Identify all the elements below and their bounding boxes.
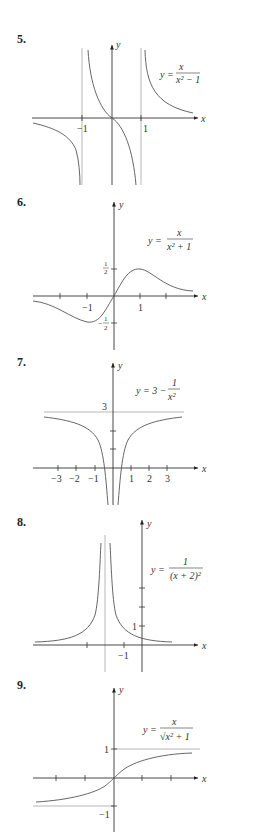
svg-text:3: 3 (165, 473, 170, 484)
svg-text:y: y (118, 684, 124, 695)
svg-text:1: 1 (104, 744, 109, 755)
svg-text:x² − 1: x² − 1 (175, 74, 200, 85)
svg-text:1: 1 (138, 302, 143, 313)
svg-text:√x² + 1: √x² + 1 (160, 731, 190, 742)
svg-text:y: y (146, 518, 152, 529)
graph-6: 6. x y −1 1 1 2 − 1 2 y = x x² + 1 (17, 195, 207, 350)
tick-label: −1 (77, 123, 88, 134)
svg-text:y: y (117, 360, 123, 371)
svg-text:x²: x² (167, 391, 176, 402)
svg-text:1: 1 (104, 260, 108, 268)
graph-7: 7. x y 3 −3 −2 −1 1 2 3 y = 3 − 1 x² (17, 355, 207, 505)
exercise-number-9: 9. (17, 678, 26, 692)
equation-6: y = x x² + 1 (147, 227, 193, 252)
svg-text:y =: y = (147, 235, 162, 246)
svg-text:2: 2 (147, 473, 152, 484)
tick-label: 1 (143, 123, 148, 134)
svg-text:−1: −1 (99, 809, 110, 820)
svg-text:y =: y = (150, 564, 165, 575)
exercise-graphs: 5. x y −1 1 y = x x² − 1 6. x y −1 (0, 0, 253, 836)
svg-text:1: 1 (183, 556, 188, 567)
curve (44, 417, 108, 505)
svg-text:x: x (201, 773, 207, 784)
svg-text:y =: y = (142, 724, 157, 735)
svg-text:−2: −2 (69, 473, 80, 484)
graph-5: 5. x y −1 1 y = x x² − 1 (17, 32, 206, 185)
exercise-number-8: 8. (17, 515, 26, 529)
svg-text:x² + 1: x² + 1 (166, 241, 191, 252)
svg-text:−: − (98, 319, 103, 328)
curve (35, 543, 101, 642)
curve (118, 417, 182, 505)
svg-text:y =: y = (159, 69, 174, 80)
curve (33, 123, 80, 185)
equation-7: y = 3 − 1 x² (135, 377, 180, 402)
exercise-number-5: 5. (17, 32, 26, 46)
svg-text:−1: −1 (88, 473, 99, 484)
svg-text:−1: −1 (82, 302, 93, 313)
svg-text:−1: −1 (118, 650, 129, 661)
svg-text:(x + 2)²: (x + 2)² (170, 570, 202, 582)
exercise-number-7: 7. (17, 355, 26, 369)
curve (110, 543, 172, 642)
exercise-number-6: 6. (17, 195, 26, 209)
equation-8: y = 1 (x + 2)² (150, 556, 203, 582)
svg-text:x: x (178, 61, 184, 72)
svg-text:−3: −3 (51, 473, 62, 484)
svg-text:y: y (118, 199, 124, 210)
graph-8: 8. x y 1 −1 y = 1 (x + 2)² (17, 515, 207, 672)
svg-text:1: 1 (129, 473, 134, 484)
svg-text:x: x (171, 716, 177, 727)
svg-text:2: 2 (104, 324, 108, 332)
svg-text:x: x (201, 640, 207, 651)
y-axis-label: y (115, 39, 121, 50)
graph-9: 9. x y 1 −1 y = x √x² + 1 (17, 678, 207, 832)
svg-text:x: x (176, 227, 182, 238)
svg-text:1: 1 (132, 621, 137, 632)
svg-text:1: 1 (172, 377, 177, 388)
svg-text:x: x (201, 463, 207, 474)
svg-text:2: 2 (104, 268, 108, 276)
equation-9: y = x √x² + 1 (142, 716, 193, 742)
svg-text:x: x (201, 291, 207, 302)
equation-5: y = x x² − 1 (159, 61, 200, 85)
svg-text:3: 3 (102, 401, 107, 412)
x-axis-label: x (200, 113, 206, 124)
svg-text:1: 1 (104, 315, 108, 323)
svg-text:y = 3 −: y = 3 − (135, 385, 166, 396)
